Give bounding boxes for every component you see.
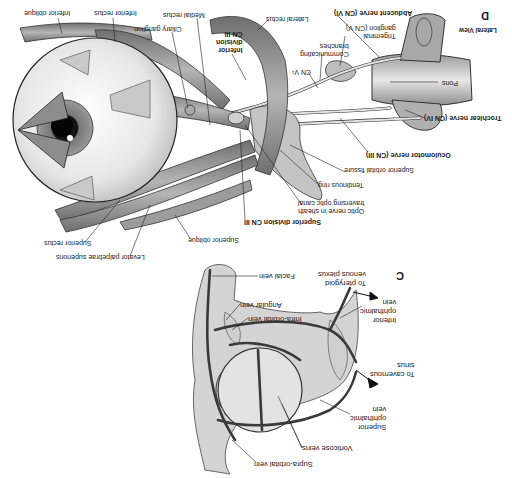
label-ciliary-ganglion: Ciliary ganglion	[134, 25, 182, 33]
label-superior-rectus: Superior rectus	[44, 239, 91, 247]
label-superior-oblique: Superior oblique	[188, 236, 239, 244]
panel-letter-d: D	[481, 10, 489, 22]
label-pons: Pons	[442, 79, 458, 87]
label-cn-v1: CN V¹	[292, 68, 311, 76]
label-tendinous-ring: Tendinous ring	[318, 181, 364, 189]
label-superior-ophthalmic-vein: Superior ophthalmic vein	[350, 405, 386, 432]
label-angular-vein: Angular vein	[240, 301, 282, 310]
label-optic-nerve: Optic nerve in sheath traversing optic c…	[298, 199, 364, 215]
panel-letter-c: C	[396, 270, 404, 282]
label-inferior-rectus: Inferior rectus	[94, 9, 137, 17]
label-lateral-rectus: Lateral rectus	[266, 15, 308, 23]
label-to-cavernous-sinus: To cavernous sinus	[370, 361, 415, 379]
label-trochlear-nerve: Trochlear nerve (CN IV)	[424, 114, 501, 122]
label-supra-orbital-vein: Supra-orbital vein	[254, 460, 313, 469]
panel-d-art	[13, 14, 472, 256]
label-inferior-oblique: Inferior oblique	[24, 9, 70, 17]
label-to-pterygoid-plexus: To pterygoid venous plexus	[318, 270, 366, 288]
ciliary-ganglion-shape	[185, 105, 195, 115]
label-superior-division-cn-iii: Superior division CN III	[244, 218, 321, 226]
label-vorticose-veins: Vorticose veins	[302, 444, 352, 453]
label-medial-rectus: Medial rectus	[163, 11, 205, 19]
label-levator-palpebrae: Levator palpebrae superioris	[56, 253, 145, 261]
label-inferior-division-cn-iii: Inferior division CN III	[216, 30, 242, 54]
label-superior-orbital-fissure: Superior orbital fissure	[344, 166, 414, 174]
panel-c-art	[192, 265, 378, 474]
label-lateral-view: Lateral View	[459, 26, 497, 34]
label-communicating-branches: Communicating branches	[300, 42, 349, 58]
label-trigeminal-ganglion: Trigeminal ganglion (CN V)	[346, 24, 396, 40]
label-inferior-ophthalmic-vein: Inferior ophthalmic vein	[360, 298, 396, 325]
midbrain-shape	[400, 14, 445, 62]
label-infra-orbital-vein: Infra-orbital vein	[248, 315, 302, 324]
label-facial-vein: Facial vein	[259, 272, 295, 281]
label-abducent-nerve: Abducent nerve (CN VI)	[334, 9, 412, 17]
label-oculomotor-nerve: Oculomotor nerve (CN III)	[366, 151, 451, 159]
